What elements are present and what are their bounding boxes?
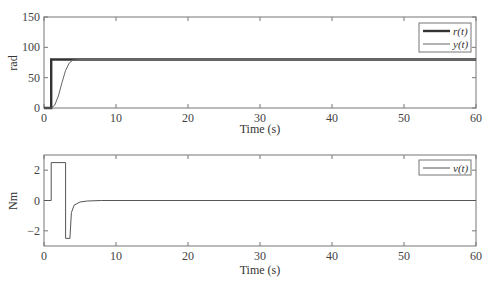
bottom-ticks: 0102030405060−202 — [27, 155, 482, 263]
y-tick-label: 150 — [22, 10, 40, 24]
series-v — [44, 163, 476, 239]
x-tick-label: 40 — [326, 249, 338, 263]
top-ylabel: rad — [6, 55, 20, 70]
x-tick-label: 60 — [470, 249, 482, 263]
bottom-ylabel: Nm — [6, 191, 20, 210]
bottom-xlabel: Time (s) — [240, 263, 281, 277]
figure: 0102030405060050100150 Time (s) rad r(t)… — [0, 0, 497, 287]
legend-r-label: r(t) — [453, 25, 468, 38]
x-tick-label: 50 — [398, 111, 410, 125]
bottom-plot: 0102030405060−202 Time (s) Nm v(t) — [6, 155, 482, 277]
x-tick-label: 0 — [41, 249, 47, 263]
series-r — [44, 60, 476, 109]
x-tick-label: 0 — [41, 111, 47, 125]
x-tick-label: 60 — [470, 111, 482, 125]
y-tick-label: 100 — [22, 40, 40, 54]
x-tick-label: 10 — [110, 111, 122, 125]
top-plot: 0102030405060050100150 Time (s) rad r(t)… — [6, 10, 482, 136]
x-tick-label: 20 — [182, 111, 194, 125]
x-tick-label: 30 — [254, 249, 266, 263]
x-tick-label: 10 — [110, 249, 122, 263]
y-tick-label: −2 — [27, 224, 40, 238]
series-y — [44, 60, 476, 109]
top-axes-frame — [44, 17, 476, 108]
top-legend: r(t) y(t) — [419, 23, 471, 52]
y-tick-label: 2 — [34, 163, 40, 177]
y-tick-label: 0 — [34, 194, 40, 208]
y-tick-label: 0 — [34, 101, 40, 115]
x-tick-label: 20 — [182, 249, 194, 263]
legend-y-label: y(t) — [452, 38, 469, 51]
y-tick-label: 50 — [28, 71, 40, 85]
x-tick-label: 50 — [398, 249, 410, 263]
x-tick-label: 40 — [326, 111, 338, 125]
top-xlabel: Time (s) — [240, 122, 281, 136]
legend-v-label: v(t) — [453, 162, 469, 175]
bottom-legend: v(t) — [419, 160, 471, 175]
